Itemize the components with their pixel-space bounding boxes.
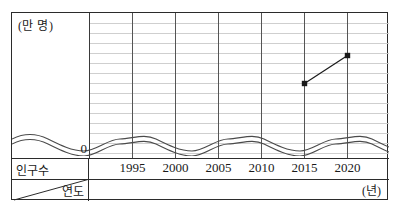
x-tick-label: 2005 bbox=[197, 160, 241, 176]
x-tick-label: 1995 bbox=[111, 160, 155, 176]
y-axis-line bbox=[89, 13, 90, 158]
figure-container: (만 명) 0 1995 2000 2005 2010 2015 2020 bbox=[0, 0, 400, 213]
corner-label-population: 인구수 bbox=[16, 161, 49, 179]
corner-legend-cell: 인구수 연도 bbox=[12, 158, 89, 201]
grid-lines bbox=[89, 13, 389, 158]
x-axis-tick-labels: 1995 2000 2005 2010 2015 2020 bbox=[89, 158, 389, 179]
y-axis-unit-label: (만 명) bbox=[18, 16, 54, 34]
corner-label-year: 연도 bbox=[62, 182, 84, 200]
x-tick-label: 2000 bbox=[154, 160, 198, 176]
x-tick-label: 2015 bbox=[283, 160, 327, 176]
x-axis-unit-label: (년) bbox=[362, 181, 381, 199]
x-tick-label: 2010 bbox=[240, 160, 284, 176]
plot-area bbox=[89, 13, 389, 158]
figure-frame: (만 명) 0 1995 2000 2005 2010 2015 2020 bbox=[11, 12, 388, 200]
y-axis-zero-label: 0 bbox=[74, 141, 87, 157]
x-tick-label: 2020 bbox=[326, 160, 370, 176]
